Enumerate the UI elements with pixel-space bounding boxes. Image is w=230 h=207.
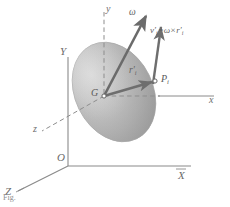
global-z-axis (18, 166, 68, 191)
body-x-axis-label: x (209, 95, 213, 105)
global-y-axis-label: Y (60, 46, 66, 57)
global-origin-label: O (57, 152, 65, 163)
global-z-axis-tick (16, 188, 24, 192)
body-y-axis-label: y (106, 4, 110, 14)
figure-caption: Fig. (3, 193, 16, 202)
angular-velocity-label: ω (129, 8, 136, 18)
particle-label: Pi (161, 74, 169, 86)
position-vector-label: r′i (129, 66, 137, 77)
diagram-canvas (0, 0, 230, 207)
figure-container: Y X Z O y x z G Pi ω r′i v′i=ω×r′i Fig. (0, 0, 230, 207)
position-subscript: i (135, 69, 137, 76)
global-x-axis-label: X (178, 170, 185, 181)
particle-subscript: i (167, 78, 169, 85)
center-of-mass-marker (102, 94, 106, 98)
body-z-axis-label: z (33, 124, 37, 134)
velocity-equation: v′i=ω×r′i (150, 26, 183, 36)
particle-marker (153, 79, 157, 83)
equation-rhs-subscript: i (182, 30, 184, 36)
center-of-mass-label: G (91, 88, 98, 98)
